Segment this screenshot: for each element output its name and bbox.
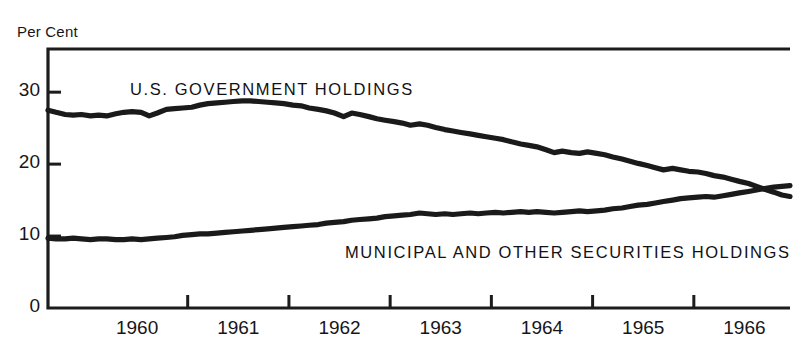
y-axis-tick-label: 20 xyxy=(0,151,40,173)
x-axis-tick-label: 1960 xyxy=(82,317,192,339)
y-axis-tick-label: 0 xyxy=(0,295,40,317)
series-label-municipal-and-other-securities-holdings: MUNICIPAL AND OTHER SECURITIES HOLDINGS xyxy=(345,243,791,262)
data-series-line xyxy=(48,101,790,197)
x-axis-tick-label: 1966 xyxy=(689,317,799,339)
series-label-us-government-holdings: U.S. GOVERNMENT HOLDINGS xyxy=(130,80,414,99)
y-axis-tick-label: 10 xyxy=(0,223,40,245)
x-axis-tick-label: 1961 xyxy=(183,317,293,339)
x-axis-tick-label: 1965 xyxy=(588,317,698,339)
x-axis-tick-label: 1963 xyxy=(386,317,496,339)
x-axis-tick-label: 1962 xyxy=(285,317,395,339)
y-axis-tick-label: 30 xyxy=(0,79,40,101)
x-axis-tick-label: 1964 xyxy=(487,317,597,339)
data-series-line xyxy=(48,186,790,240)
chart-figure: Per Cent U.S. GOVERNMENT HOLDINGS MUNICI… xyxy=(0,0,807,355)
chart-plot-area xyxy=(0,0,807,355)
